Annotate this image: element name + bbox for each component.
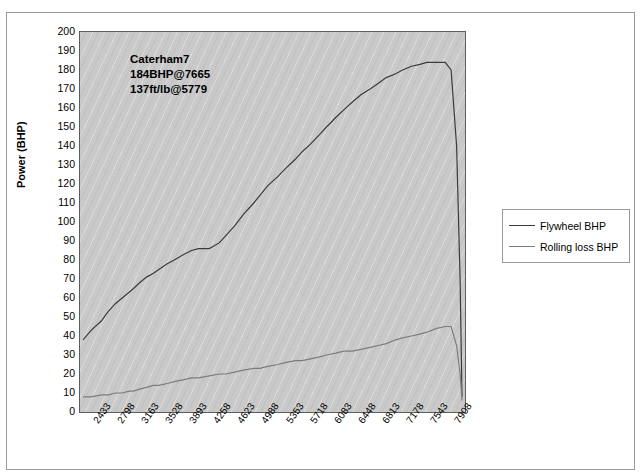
y-tick-label: 20 — [41, 368, 75, 378]
chart-page: Power (BHP) 2001901801701601501401301201… — [0, 0, 642, 476]
y-tick-label: 40 — [41, 330, 75, 340]
y-tick-label: 200 — [41, 26, 75, 36]
top-partial-text — [0, 0, 642, 12]
legend-swatch-flywheel-bhp — [509, 225, 535, 226]
y-tick-label: 180 — [41, 64, 75, 74]
y-tick-label: 150 — [41, 121, 75, 131]
y-tick-label: 100 — [41, 216, 75, 226]
legend-item-rolling-loss-bhp: Rolling loss BHP — [507, 236, 625, 257]
y-tick-label: 50 — [41, 311, 75, 321]
y-tick-label: 30 — [41, 349, 75, 359]
legend-item-flywheel-bhp: Flywheel BHP — [507, 215, 625, 236]
y-tick-label: 60 — [41, 292, 75, 302]
x-axis-ticks: 2433279831633528389342584623498853535718… — [7, 415, 477, 471]
y-tick-label: 80 — [41, 254, 75, 264]
annotation-line-2: 184BHP@7665 — [130, 67, 210, 82]
annotation-line-1: Caterham7 — [130, 52, 210, 67]
series-line — [83, 327, 462, 401]
y-tick-label: 140 — [41, 140, 75, 150]
chart-annotation: Caterham7 184BHP@7665 137ft/lb@5779 — [130, 52, 210, 97]
y-tick-label: 130 — [41, 159, 75, 169]
y-tick-label: 120 — [41, 178, 75, 188]
y-tick-label: 90 — [41, 235, 75, 245]
y-tick-label: 170 — [41, 83, 75, 93]
legend-swatch-rolling-loss-bhp — [509, 246, 535, 247]
legend-label-rolling-loss-bhp: Rolling loss BHP — [540, 241, 618, 253]
y-tick-label: 110 — [41, 197, 75, 207]
y-axis-title: Power (BHP) — [15, 121, 27, 188]
legend: Flywheel BHP Rolling loss BHP — [502, 209, 630, 263]
y-tick-label: 190 — [41, 45, 75, 55]
y-axis-ticks: 2001901801701601501401301201101009080706… — [37, 13, 75, 413]
chart-panel: Power (BHP) 2001901801701601501401301201… — [6, 12, 635, 470]
series-line — [83, 62, 462, 396]
y-tick-label: 160 — [41, 102, 75, 112]
annotation-line-3: 137ft/lb@5779 — [130, 82, 210, 97]
legend-label-flywheel-bhp: Flywheel BHP — [540, 220, 606, 232]
plot-area: Caterham7 184BHP@7665 137ft/lb@5779 — [79, 31, 466, 413]
y-tick-label: 10 — [41, 387, 75, 397]
y-tick-label: 70 — [41, 273, 75, 283]
